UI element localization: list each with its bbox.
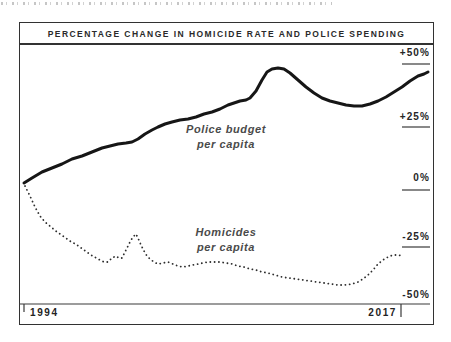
y-axis-label-minus25: -25% bbox=[330, 231, 430, 242]
y-axis-label-plus50: +50% bbox=[330, 47, 430, 58]
chart-title: PERCENTAGE CHANGE IN HOMICIDE RATE AND P… bbox=[19, 29, 434, 39]
series-label-police-line2: per capita bbox=[146, 137, 306, 152]
chart-screenshot: PERCENTAGE CHANGE IN HOMICIDE RATE AND P… bbox=[0, 0, 451, 342]
series-label-homicides: Homicides per capita bbox=[146, 225, 306, 254]
y-axis-label-plus25: +25% bbox=[330, 111, 430, 122]
y-axis-label-minus50: -50% bbox=[330, 289, 430, 300]
x-axis-label-1994: 1994 bbox=[30, 307, 59, 318]
series-label-police-line1: Police budget bbox=[146, 122, 306, 137]
plot-area bbox=[19, 44, 432, 323]
x-axis-label-2017: 2017 bbox=[297, 307, 397, 318]
y-axis-label-zero: 0% bbox=[330, 172, 430, 183]
y-axis-ticks bbox=[19, 64, 430, 317]
series-label-homicides-line1: Homicides bbox=[146, 225, 306, 240]
series-label-police-budget: Police budget per capita bbox=[146, 122, 306, 151]
cropped-text-remnant bbox=[1, 2, 332, 5]
series-label-homicides-line2: per capita bbox=[146, 240, 306, 255]
